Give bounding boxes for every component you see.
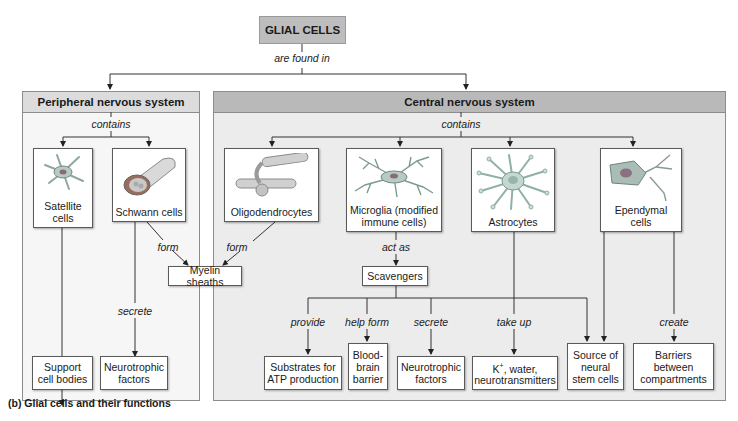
figure-caption: (b) Glial cells and their functions [8, 397, 171, 409]
support-line1: Support [44, 361, 81, 373]
oligodendrocyte-icon [232, 153, 312, 199]
k-water-text: , water, [504, 362, 538, 374]
glial-cells-title: GLIAL CELLS [259, 16, 346, 44]
ependymal-label-2: cells [630, 216, 651, 228]
microglia-label-2: immune cells) [362, 216, 427, 228]
relation-are-found-in: are found in [274, 52, 329, 64]
function-k-water-neurotransmitters: K+, water,neurotransmitters [472, 356, 558, 390]
cell-ependymal: Ependymalcells [600, 148, 682, 232]
cell-satellite: Satellitecells [33, 148, 93, 228]
oligodendrocyte-label: Oligodendrocytes [231, 206, 313, 218]
function-substrates-atp: Substrates forATP production [264, 356, 342, 390]
substrates-line1: Substrates for [270, 361, 335, 373]
stem-line3: stem cells [572, 373, 619, 385]
function-barriers-between-compartments: Barriersbetweencompartments [633, 343, 714, 390]
stem-line2: neural [581, 361, 610, 373]
cell-microglia: Microglia (modifiedimmune cells) [346, 148, 442, 232]
cns-neuro-line1: Neurotrophic [401, 361, 461, 373]
satellite-label-2: cells [52, 212, 73, 224]
pns-neuro-line2: factors [118, 373, 150, 385]
k-neurotransmitters-text: neurotransmitters [474, 374, 556, 386]
barriers-line1: Barriers [655, 349, 692, 361]
pns-neuro-line1: Neurotrophic [104, 361, 164, 373]
function-neural-stem-cells: Source ofneuralstem cells [567, 343, 624, 390]
ependymal-cell-icon [604, 153, 678, 203]
support-line2: cell bodies [38, 373, 88, 385]
astrocyte-icon [475, 153, 551, 211]
cns-relation-contains: contains [441, 118, 480, 130]
k-symbol: K [493, 362, 500, 374]
satellite-label-1: Satellite [44, 200, 81, 212]
relation-create: create [659, 316, 688, 328]
barriers-line3: compartments [640, 373, 707, 385]
bbb-line3: barrier [353, 373, 383, 385]
barriers-line2: between [654, 361, 694, 373]
scavengers-box: Scavengers [362, 266, 428, 286]
pns-heading: Peripheral nervous system [23, 92, 199, 113]
function-support-cell-bodies: Supportcell bodies [32, 356, 93, 390]
bbb-line2: brain [356, 361, 379, 373]
relation-act-as: act as [382, 241, 410, 253]
stem-line1: Source of [573, 349, 618, 361]
relation-oligo-form: form [227, 241, 248, 253]
microglia-icon [351, 153, 437, 201]
bbb-line1: Blood- [353, 349, 383, 361]
cell-oligodendrocytes: Oligodendrocytes [224, 148, 319, 222]
satellite-cell-icon [39, 153, 87, 191]
pns-relation-contains: contains [91, 118, 130, 130]
relation-schwann-form: form [158, 241, 179, 253]
function-blood-brain-barrier: Blood-brainbarrier [348, 343, 388, 390]
astrocyte-label: Astrocytes [488, 216, 537, 228]
schwann-label: Schwann cells [115, 206, 182, 218]
substrates-line2: ATP production [267, 373, 338, 385]
myelin-sheaths-box: Myelin sheaths [168, 266, 242, 286]
relation-schwann-secrete: secrete [118, 305, 152, 317]
relation-take-up: take up [497, 316, 531, 328]
microglia-label-1: Microglia (modified [350, 204, 438, 216]
cell-schwann: Schwann cells [112, 148, 186, 222]
cns-heading: Central nervous system [214, 92, 725, 113]
cell-astrocytes: Astrocytes [471, 148, 555, 232]
relation-astro-secrete: secrete [414, 316, 448, 328]
function-cns-neurotrophic-factors: Neurotrophicfactors [397, 356, 465, 390]
relation-help-form: help form [345, 316, 389, 328]
ependymal-label-1: Ependymal [615, 204, 668, 216]
function-pns-neurotrophic-factors: Neurotrophicfactors [100, 356, 168, 390]
cns-neuro-line2: factors [415, 373, 447, 385]
relation-provide: provide [291, 316, 325, 328]
schwann-cell-icon [119, 153, 179, 197]
